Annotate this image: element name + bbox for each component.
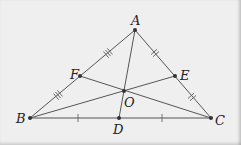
point-e [173, 74, 177, 78]
triangle-medians-diagram: A B C D E F O [0, 0, 241, 145]
median-be [30, 76, 175, 118]
diagram-frame: A B C D E F O [0, 0, 241, 145]
label-e: E [179, 68, 190, 83]
point-b [28, 116, 32, 120]
point-c [209, 116, 213, 120]
point-a [133, 28, 137, 32]
label-a: A [130, 13, 140, 28]
median-cf [80, 76, 211, 118]
point-d [117, 116, 121, 120]
side-ab [30, 30, 135, 118]
label-b: B [15, 111, 26, 126]
label-d: D [112, 122, 124, 137]
label-o: O [124, 95, 135, 110]
side-ca [135, 30, 211, 118]
point-o [122, 89, 126, 93]
label-c: C [215, 113, 225, 128]
label-f: F [69, 67, 80, 82]
